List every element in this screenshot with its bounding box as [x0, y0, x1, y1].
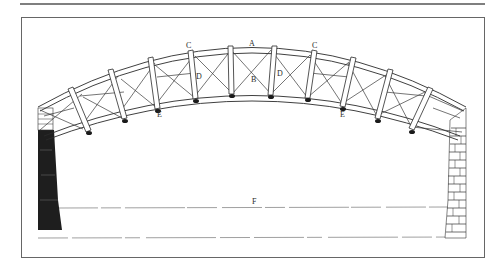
engraving-plate: A C C D D B E E F	[0, 0, 499, 272]
lattice-bracing	[40, 50, 463, 132]
post-bolts	[86, 94, 415, 135]
label-F: F	[252, 197, 257, 206]
label-A: A	[249, 39, 255, 48]
left-abutment	[38, 108, 62, 230]
plate-frame	[22, 18, 485, 258]
label-C-left: C	[186, 41, 191, 50]
label-E-right: E	[340, 110, 345, 119]
label-D-left: D	[196, 72, 202, 81]
right-abutment	[445, 108, 466, 238]
water-line-F	[38, 207, 466, 238]
figure-labels: A C C D D B E E F	[157, 39, 345, 206]
label-E-left: E	[157, 110, 162, 119]
label-C-right: C	[312, 41, 317, 50]
label-B: B	[251, 75, 256, 84]
label-D-right: D	[277, 69, 283, 78]
